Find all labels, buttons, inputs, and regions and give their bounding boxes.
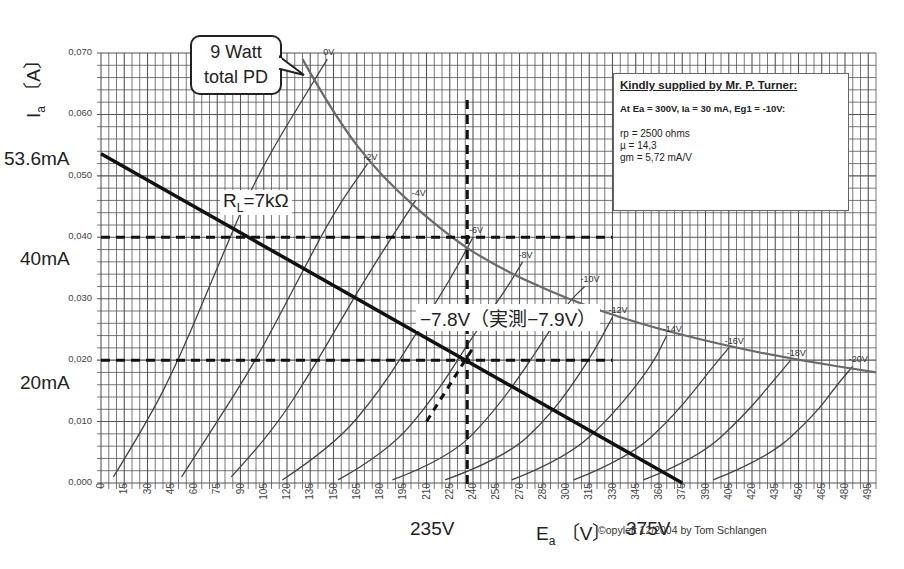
x-tick-label: 495 (862, 483, 873, 513)
x-tick-label: 180 (374, 483, 385, 513)
x-tick-label: 405 (723, 483, 734, 513)
x-tick-label: 480 (839, 483, 850, 513)
x-tick-label: 15 (118, 483, 129, 513)
y-axis-title: IaIa 〔A〕 (18, 50, 48, 118)
x-tick-label: 240 (467, 483, 478, 513)
pd-callout: 9 Watt total PD (190, 35, 282, 95)
tube-parameters-box: Kindly supplied by Mr. P. Turner: At Ea … (613, 73, 849, 211)
x-tick-label: 450 (793, 483, 804, 513)
x-tick-label: 360 (653, 483, 664, 513)
annotation-20ma: 20mA (20, 372, 70, 394)
x-tick-label: 165 (351, 483, 362, 513)
y-tick-label: 0,030 (42, 292, 92, 303)
curve-label: -10V (581, 274, 600, 284)
x-tick-label: 210 (421, 483, 432, 513)
x-tick-label: 375 (676, 483, 687, 513)
y-tick-label: 0,040 (42, 230, 92, 241)
x-tick-label: 0 (95, 483, 106, 513)
x-tick-label: 75 (211, 483, 222, 513)
x-tick-label: 135 (304, 483, 315, 513)
x-tick-label: 345 (630, 483, 641, 513)
curve-label: -8V (519, 250, 533, 260)
y-tick-label: 0,010 (42, 415, 92, 426)
y-tick-label: 0,000 (42, 476, 92, 487)
x-tick-label: 225 (444, 483, 455, 513)
x-tick-label: 30 (142, 483, 153, 513)
y-tick-label: 0,060 (42, 107, 92, 118)
y-tick-label: 0,020 (42, 353, 92, 364)
x-tick-label: 435 (769, 483, 780, 513)
x-tick-label: 45 (165, 483, 176, 513)
x-tick-label: 330 (607, 483, 618, 513)
y-tick-label: 0,070 (42, 46, 92, 57)
x-tick-label: 195 (397, 483, 408, 513)
x-tick-label: 150 (328, 483, 339, 513)
curve-label: -18V (787, 348, 806, 358)
load-line-label: RL=7kΩ (220, 190, 292, 215)
x-tick-label: 300 (560, 483, 571, 513)
curve-label: 0V (323, 47, 334, 57)
curve-label: -2V (364, 152, 378, 162)
x-tick-label: 420 (746, 483, 757, 513)
annotation-53-6ma: 53.6mA (4, 148, 69, 170)
x-tick-label: 60 (188, 483, 199, 513)
x-tick-label: 390 (700, 483, 711, 513)
curve-label: -20V (849, 354, 868, 364)
x-tick-label: 465 (816, 483, 827, 513)
x-tick-label: 105 (258, 483, 269, 513)
x-tick-label: 90 (235, 483, 246, 513)
x-tick-label: 285 (537, 483, 548, 513)
curve-label: -12V (609, 305, 628, 315)
copyright: ©opyleft 12/2004 by Tom Schlangen (598, 524, 767, 536)
bias-annotation: −7.8V（実測−7.9V） (416, 304, 600, 331)
x-tick-label: 255 (490, 483, 501, 513)
x-tick-label: 120 (281, 483, 292, 513)
y-tick-label: 0,050 (42, 169, 92, 180)
callout-pointer (278, 55, 310, 85)
curve-label: -6V (469, 225, 483, 235)
x-tick-label: 315 (583, 483, 594, 513)
curve-label: -16V (725, 336, 744, 346)
annotation-235v: 235V (410, 518, 454, 540)
curve-label: -14V (663, 324, 682, 334)
annotation-40ma: 40mA (20, 248, 70, 270)
curve-label: -4V (412, 188, 426, 198)
x-tick-label: 270 (514, 483, 525, 513)
